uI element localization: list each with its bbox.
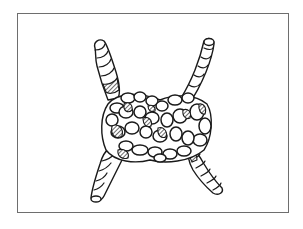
knot-body xyxy=(102,92,212,162)
knot-illustration xyxy=(0,0,303,229)
rope-end-top-left xyxy=(95,40,120,100)
rope-end-top-right xyxy=(181,39,214,103)
